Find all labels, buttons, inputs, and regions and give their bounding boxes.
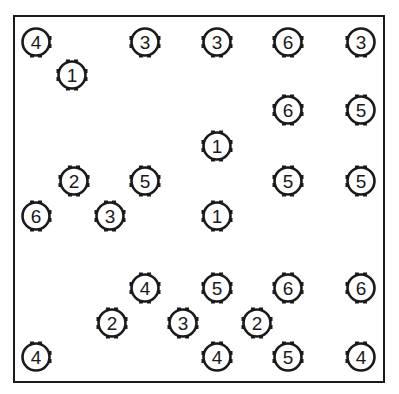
gear-number: 3 — [343, 24, 379, 60]
gear-number: 3 — [92, 198, 128, 234]
gear-cell[interactable]: 5 — [343, 163, 379, 199]
gear-cell[interactable]: 3 — [165, 305, 201, 341]
gear-number: 4 — [18, 339, 54, 375]
gear-cell[interactable]: 5 — [199, 270, 235, 306]
gear-cell[interactable]: 5 — [270, 163, 306, 199]
gear-number: 4 — [18, 24, 54, 60]
gear-number: 6 — [270, 270, 306, 306]
gear-cell[interactable]: 1 — [199, 128, 235, 164]
gear-number: 1 — [199, 128, 235, 164]
gear-cell[interactable]: 1 — [199, 198, 235, 234]
gear-number: 5 — [343, 163, 379, 199]
gear-cell[interactable]: 5 — [343, 92, 379, 128]
gear-number: 4 — [199, 339, 235, 375]
gear-cell[interactable]: 3 — [199, 24, 235, 60]
gear-cell[interactable]: 3 — [343, 24, 379, 60]
gear-cell[interactable]: 3 — [92, 198, 128, 234]
gear-cell[interactable]: 4 — [343, 339, 379, 375]
gear-number: 6 — [18, 198, 54, 234]
gear-cell[interactable]: 3 — [127, 24, 163, 60]
gear-number: 1 — [199, 198, 235, 234]
gear-cell[interactable]: 2 — [94, 305, 130, 341]
gear-number: 1 — [54, 57, 90, 93]
gear-cell[interactable]: 2 — [56, 163, 92, 199]
gear-number: 6 — [343, 270, 379, 306]
gear-number: 6 — [270, 92, 306, 128]
gear-number: 5 — [270, 163, 306, 199]
gear-number: 5 — [270, 339, 306, 375]
gear-cell[interactable]: 4 — [18, 24, 54, 60]
gear-number: 2 — [239, 305, 275, 341]
gear-number: 5 — [127, 163, 163, 199]
gear-cell[interactable]: 6 — [270, 92, 306, 128]
gear-number: 5 — [343, 92, 379, 128]
gear-number: 5 — [199, 270, 235, 306]
gear-number: 4 — [343, 339, 379, 375]
gear-number: 6 — [270, 24, 306, 60]
gear-cell[interactable]: 5 — [127, 163, 163, 199]
gear-cell[interactable]: 4 — [18, 339, 54, 375]
gear-cell[interactable]: 6 — [270, 24, 306, 60]
gear-cell[interactable]: 6 — [343, 270, 379, 306]
gear-number: 3 — [127, 24, 163, 60]
gear-cell[interactable]: 2 — [239, 305, 275, 341]
gear-cell[interactable]: 1 — [54, 57, 90, 93]
gear-cell[interactable]: 4 — [199, 339, 235, 375]
gear-number: 4 — [127, 270, 163, 306]
gear-cell[interactable]: 6 — [18, 198, 54, 234]
gear-number: 3 — [165, 305, 201, 341]
gear-cell[interactable]: 5 — [270, 339, 306, 375]
gear-cell[interactable]: 6 — [270, 270, 306, 306]
gear-cell[interactable]: 4 — [127, 270, 163, 306]
gear-number: 2 — [56, 163, 92, 199]
gear-number: 2 — [94, 305, 130, 341]
gear-number: 3 — [199, 24, 235, 60]
